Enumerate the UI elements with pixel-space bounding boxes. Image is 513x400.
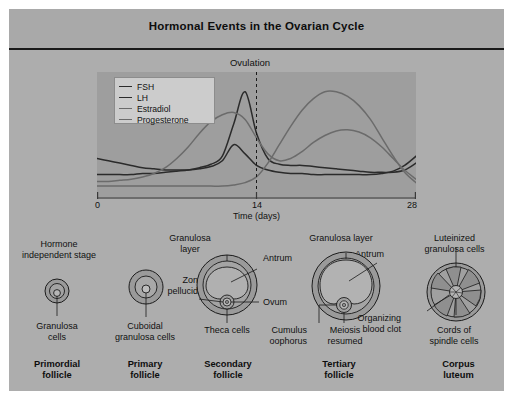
caption-line-1: Granulosa (15, 321, 99, 332)
caption-line-2: oophorus (241, 336, 307, 347)
legend-item-lh: LH (119, 92, 210, 103)
legend-swatch-fsh (119, 86, 132, 87)
caption-granulosa-cells: Granulosa cells (15, 321, 99, 342)
caption-hormone-independent-stage: Hormone independent stage (17, 239, 101, 260)
primordial-leader-lines (37, 271, 77, 319)
caption-line-1: Luteinized (405, 233, 504, 244)
stage-label-line-2: follicle (11, 370, 103, 381)
corpus-luteum-diagram (423, 259, 489, 325)
stage-corpus-luteum: Luteinized granulosa cells (401, 231, 504, 391)
caption-line-2: resumed (311, 336, 379, 347)
caption-line-1: Cords of (411, 325, 497, 336)
page-title: Hormonal Events in the Ovarian Cycle (9, 20, 504, 32)
x-tick-label-28: 28 (407, 200, 417, 210)
stage-label-line-1: Corpus (407, 359, 510, 370)
caption-line-2: cells (15, 332, 99, 343)
legend-item-estradiol: Estradiol (119, 103, 210, 114)
x-tick-label-14: 14 (252, 200, 262, 210)
caption-organizing-blood-clot: Organizing blood clot (339, 313, 401, 334)
legend-swatch-lh (119, 97, 132, 98)
figure-panel: Hormonal Events in the Ovarian Cycle Ovu… (9, 9, 504, 391)
stage-label-line-2: luteum (407, 370, 510, 381)
caption-line-2: blood clot (339, 324, 401, 335)
caption-line-1: Cumulus (241, 325, 307, 336)
stage-label-line-1: Tertiary (269, 359, 409, 370)
stage-primordial: Hormone independent stage Granulosa cell… (11, 231, 103, 391)
legend-label-progesterone: Progesterone (137, 115, 189, 125)
stage-label-primordial: Primordial follicle (11, 359, 103, 381)
stage-label-line-2: follicle (269, 370, 409, 381)
stage-label-corpus-luteum: Corpus luteum (407, 359, 510, 381)
x-tick-label-0: 0 (95, 200, 100, 210)
ovulation-annotation-label: Ovulation (205, 57, 295, 68)
title-divider (9, 48, 504, 50)
caption-line-2: granulosa cells (405, 244, 504, 255)
x-axis-title: Time (days) (97, 211, 416, 221)
caption-line-1: Hormone (17, 239, 101, 250)
title-bar: Hormonal Events in the Ovarian Cycle (9, 9, 504, 49)
caption-cumulus-oophorus: Cumulus Meiosis oophorus (241, 325, 307, 346)
legend-label-fsh: FSH (137, 82, 154, 92)
stage-label-line-1: Primordial (11, 359, 103, 370)
caption-line-2: spindle cells (411, 336, 497, 347)
caption-line-1: Organizing (339, 313, 401, 324)
chart-legend: FSH LH Estradiol Progesterone (114, 77, 215, 124)
caption-line-1: Granulosa (155, 233, 225, 244)
caption-line-1: Granulosa layer (289, 233, 393, 244)
follicle-stages-row: Hormone independent stage Granulosa cell… (9, 231, 504, 391)
legend-swatch-progesterone (119, 119, 132, 120)
legend-label-lh: LH (137, 93, 148, 103)
legend-label-estradiol: Estradiol (137, 104, 170, 114)
stage-label-tertiary: Tertiary follicle (269, 359, 409, 381)
caption-line-2: independent stage (17, 250, 101, 261)
hormone-chart: Ovulation FSH LH Estradiol (9, 51, 504, 231)
caption-cords-of-spindle-cells: Cords of spindle cells (411, 325, 497, 346)
secondary-follicle-diagram (191, 249, 263, 321)
caption-luteinized-granulosa-cells: Luteinized granulosa cells (405, 233, 504, 254)
legend-item-progesterone: Progesterone (119, 114, 210, 125)
legend-swatch-estradiol (119, 108, 132, 109)
caption-granulosa-layer: Granulosa layer (289, 233, 393, 244)
legend-item-fsh: FSH (119, 81, 210, 92)
